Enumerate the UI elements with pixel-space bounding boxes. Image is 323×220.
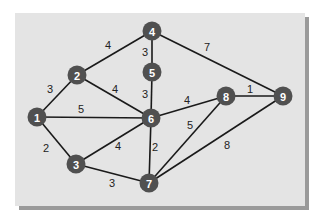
edge-weight-4-5: 3 [142,46,148,58]
weighted-graph: 352443734142583 123456789 [0,0,323,220]
edge-6-3 [76,118,151,164]
edge-weight-4-9: 7 [204,41,210,53]
edge-9-7 [149,96,283,183]
edge-2-6 [77,75,151,118]
node-9: 9 [274,87,293,106]
nodes-layer: 123456789 [28,22,293,193]
node-3: 3 [67,155,86,174]
node-1: 1 [28,108,47,127]
edge-2-4 [77,31,152,75]
node-2: 2 [68,66,87,85]
node-label: 5 [149,67,155,79]
node-4: 4 [143,22,162,41]
node-6: 6 [142,109,161,128]
edge-weight-6-8: 4 [184,94,190,106]
edge-weight-8-7: 5 [187,119,193,131]
node-8: 8 [217,87,236,106]
edge-6-7 [149,118,151,183]
edge-weight-3-7: 3 [109,177,115,189]
edge-weight-2-6: 4 [112,83,118,95]
edge-weight-5-6: 3 [142,88,148,100]
node-label: 1 [34,112,40,124]
node-label: 4 [149,26,156,38]
node-label: 2 [74,70,80,82]
edge-1-6 [37,117,151,118]
node-label: 9 [280,91,286,103]
edge-weight-8-9: 1 [247,83,253,95]
edge-4-9 [152,31,283,96]
edge-8-7 [149,96,226,183]
edge-weight-6-3: 4 [115,140,121,152]
edge-weight-9-7: 8 [224,139,230,151]
edge-weight-1-6: 5 [78,103,84,115]
edge-weight-1-3: 2 [43,142,49,154]
edge-weight-1-2: 3 [47,83,53,95]
node-5: 5 [143,63,162,82]
node-label: 7 [146,178,152,190]
edge-weight-6-7: 2 [152,141,158,153]
node-7: 7 [140,174,159,193]
edge-weight-2-4: 4 [105,39,111,51]
node-label: 8 [223,91,229,103]
node-label: 3 [73,159,79,171]
node-label: 6 [148,113,154,125]
